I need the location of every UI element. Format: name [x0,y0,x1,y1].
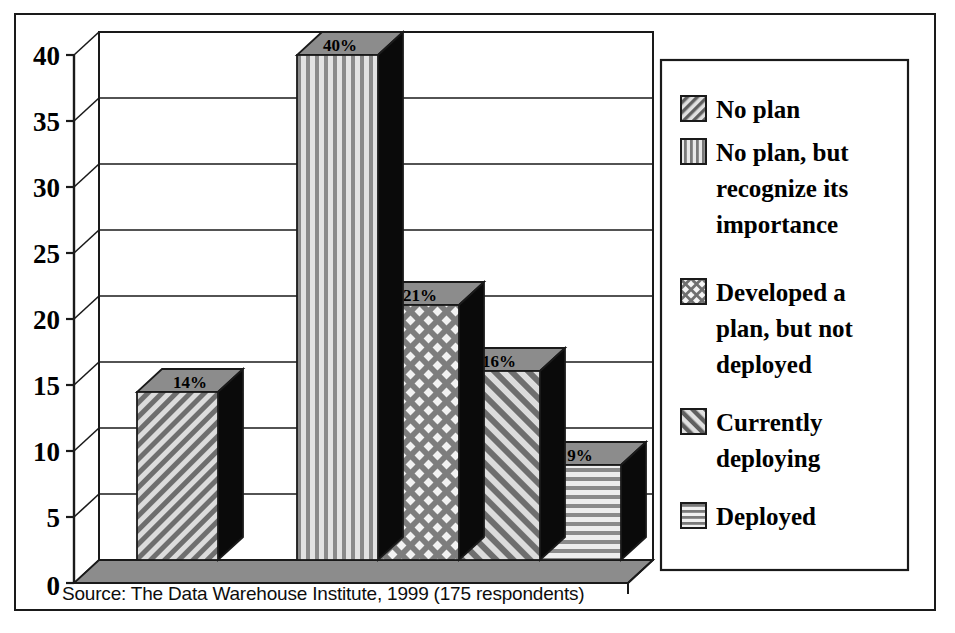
legend-label-line: Developed a [716,279,846,306]
y-tick-label: 40 [33,41,60,71]
y-tick-label: 20 [33,305,60,335]
legend: No plan No plan, but recognize its impor… [661,60,908,570]
legend-label-line: No plan, but [716,139,849,166]
bar-no-plan: 14% [137,369,243,560]
bar-value-label: 40% [323,36,357,55]
y-tick-label: 35 [33,107,60,137]
legend-item-deployed[interactable]: Deployed [681,503,816,530]
bar-value-label: 14% [173,373,207,392]
bar-value-label: 9% [567,446,593,465]
y-tick-label: 0 [47,571,61,601]
legend-label-line: No plan [716,96,800,123]
legend-swatch-horizontal-stripes-icon [681,503,706,528]
legend-label-line: deployed [716,351,812,378]
legend-label-line: Currently [716,409,823,436]
bar-no-plan-recognize-importance: 40% [297,32,403,560]
axis-depth-connectors [74,32,99,583]
legend-label-line: Deployed [716,503,816,530]
y-tick-label: 30 [33,173,60,203]
y-axis-tick-labels: 40 35 30 25 20 15 10 5 0 [33,41,60,601]
y-tick-label: 25 [33,239,60,269]
legend-swatch-checkerboard-diamond-icon [681,279,706,304]
y-axis-spine [66,55,74,583]
bar-value-label: 16% [482,352,516,371]
y-tick-label: 5 [47,503,61,533]
y-tick-label: 15 [33,371,60,401]
y-tick-label: 10 [33,437,60,467]
legend-swatch-vertical-stripes-icon [681,139,706,164]
chart-canvas: 40 35 30 25 20 15 10 5 0 9% 16% [0,0,955,633]
legend-swatch-forward-diagonal-icon [681,409,706,434]
chart-figure: 40 35 30 25 20 15 10 5 0 9% 16% [0,0,955,633]
legend-label-line: deploying [716,445,821,472]
plot-floor [74,560,653,583]
legend-label-line: recognize its [716,175,848,202]
legend-label-line: importance [716,211,838,238]
bar-value-label: 21% [403,286,437,305]
legend-label-line: plan, but not [716,315,854,342]
legend-item-no-plan[interactable]: No plan [681,96,800,123]
source-note: Source: The Data Warehouse Institute, 19… [62,583,584,604]
legend-swatch-dense-backward-diagonal-icon [681,96,706,121]
